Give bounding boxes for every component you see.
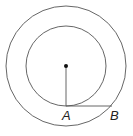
center-point <box>64 64 68 68</box>
concentric-circles-diagram: A B <box>0 0 133 136</box>
point-label-a: A <box>61 108 71 123</box>
point-label-b: B <box>110 108 119 123</box>
